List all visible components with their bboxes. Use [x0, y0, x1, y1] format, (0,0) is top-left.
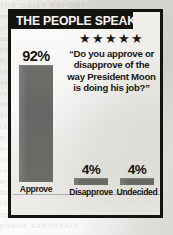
poll-question-text: “Do you approve or disapprove of the way…: [63, 48, 160, 94]
page-title: THE PEOPLE SPEAK: [16, 14, 133, 28]
bar-disapprove: [74, 178, 108, 185]
bar-value-undecided: 4%: [114, 162, 160, 177]
headline-banner: THE PEOPLE SPEAK: [11, 12, 133, 29]
bar-label-disapprove: Disapprove: [68, 187, 114, 197]
bar-label-undecided: Undecided: [114, 187, 160, 197]
poll-infographic-panel: THE PEOPLE SPEAK ★★★★★ “Do you approve o…: [8, 9, 163, 218]
bar-value-approve: 92%: [13, 49, 59, 64]
bar-value-disapprove: 4%: [68, 162, 114, 177]
bleed-line: public confidence: [0, 220, 173, 231]
bar-label-approve: Approve: [13, 184, 59, 194]
bar-group-undecided: 4% Undecided: [114, 162, 160, 197]
bar-group-disapprove: 4% Disapprove: [68, 162, 114, 197]
bar-undecided: [120, 178, 154, 185]
bar-group-approve: 92% Approve: [13, 49, 59, 194]
star-rating-icons: ★★★★★: [63, 32, 160, 47]
poll-question-block: ★★★★★ “Do you approve or disapprove of t…: [63, 32, 160, 94]
bar-approve: [19, 65, 53, 182]
